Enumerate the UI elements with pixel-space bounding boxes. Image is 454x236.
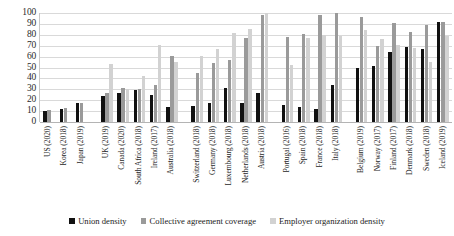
bar-group[interactable] (148, 13, 164, 122)
bar-group[interactable] (238, 13, 254, 122)
bar[interactable] (261, 15, 264, 122)
label-cluster: Belgium (2019)Norway (2017)Finland (2017… (353, 124, 451, 204)
chart-legend: Union densityCollective agreement covera… (0, 212, 454, 230)
bar[interactable] (170, 56, 173, 122)
category-label-text: Portugal (2016) (283, 126, 291, 172)
bar[interactable] (388, 52, 391, 122)
bar[interactable] (64, 108, 67, 122)
legend-swatch-icon (69, 218, 75, 224)
bar[interactable] (318, 15, 321, 122)
bar[interactable] (121, 88, 124, 122)
bar-group[interactable] (189, 13, 205, 122)
bar-group[interactable] (99, 13, 115, 122)
bar[interactable] (244, 38, 247, 122)
bar-group[interactable] (279, 13, 295, 122)
bar[interactable] (126, 89, 129, 122)
bar[interactable] (409, 32, 412, 122)
bar[interactable] (339, 36, 342, 122)
bar[interactable] (290, 65, 293, 122)
bar-group[interactable] (328, 13, 344, 122)
bar[interactable] (356, 68, 359, 123)
bar[interactable] (109, 64, 112, 122)
bar-cluster (189, 13, 270, 122)
bar[interactable] (425, 25, 428, 122)
bar-group[interactable] (312, 13, 328, 122)
legend-item[interactable]: Employer organization density (270, 216, 385, 226)
bar-group[interactable] (115, 13, 131, 122)
bar[interactable] (105, 93, 108, 122)
bar[interactable] (240, 103, 243, 122)
bar[interactable] (224, 88, 227, 122)
bar[interactable] (191, 106, 194, 122)
bar-group[interactable] (386, 13, 402, 122)
category-label-text: Germany (2018) (209, 126, 217, 175)
bar[interactable] (445, 36, 448, 122)
bar[interactable] (138, 89, 141, 122)
bar[interactable] (154, 85, 157, 122)
bar[interactable] (150, 95, 153, 122)
bar[interactable] (437, 22, 440, 122)
bar[interactable] (174, 62, 177, 122)
bar[interactable] (166, 107, 169, 122)
bar[interactable] (282, 105, 285, 122)
bar[interactable] (306, 38, 309, 122)
bar[interactable] (421, 49, 424, 122)
bar-group[interactable] (402, 13, 418, 122)
legend-item[interactable]: Collective agreement coverage (141, 216, 256, 226)
bar-group[interactable] (222, 13, 238, 122)
bar[interactable] (380, 39, 383, 122)
bar[interactable] (216, 49, 219, 122)
bar[interactable] (248, 29, 251, 122)
bar[interactable] (441, 22, 444, 122)
bar-group[interactable] (57, 13, 73, 122)
bar-group[interactable] (370, 13, 386, 122)
bar[interactable] (298, 107, 301, 122)
bar[interactable] (396, 45, 399, 122)
bar-group[interactable] (254, 13, 270, 122)
bar[interactable] (200, 56, 203, 122)
bar[interactable] (256, 93, 259, 122)
bar[interactable] (208, 103, 211, 122)
bar[interactable] (196, 73, 199, 122)
bar[interactable] (360, 17, 363, 122)
bar[interactable] (142, 76, 145, 122)
bar[interactable] (286, 37, 289, 122)
category-label: Korea (2018) (56, 124, 72, 204)
bar-group[interactable] (41, 13, 57, 122)
bar-group[interactable] (131, 13, 147, 122)
bar-group[interactable] (74, 13, 90, 122)
bar-group[interactable] (296, 13, 312, 122)
bar[interactable] (134, 90, 137, 122)
bar-group[interactable] (164, 13, 180, 122)
bar[interactable] (47, 110, 50, 122)
bar[interactable] (76, 103, 79, 122)
bar[interactable] (372, 66, 375, 122)
bar[interactable] (265, 13, 268, 122)
bar[interactable] (405, 47, 408, 122)
bar[interactable] (335, 13, 338, 122)
bar[interactable] (212, 63, 215, 122)
bar[interactable] (232, 33, 235, 122)
bar[interactable] (228, 60, 231, 122)
bar[interactable] (117, 93, 120, 122)
bar[interactable] (331, 85, 334, 122)
bar[interactable] (158, 45, 161, 122)
bar[interactable] (364, 30, 367, 122)
bar[interactable] (429, 62, 432, 122)
bar[interactable] (314, 109, 317, 122)
bar[interactable] (322, 35, 325, 122)
bar-group[interactable] (418, 13, 434, 122)
bar[interactable] (376, 46, 379, 122)
bar[interactable] (80, 103, 83, 122)
bar[interactable] (60, 109, 63, 122)
bar[interactable] (302, 34, 305, 122)
bar[interactable] (43, 111, 46, 122)
bar[interactable] (413, 48, 416, 122)
legend-item[interactable]: Union density (69, 216, 126, 226)
bar-group[interactable] (205, 13, 221, 122)
bar-group[interactable] (435, 13, 451, 122)
category-label: Switzerland (2018) (188, 124, 204, 204)
bar-group[interactable] (353, 13, 369, 122)
bar[interactable] (101, 96, 104, 122)
bar[interactable] (392, 23, 395, 122)
